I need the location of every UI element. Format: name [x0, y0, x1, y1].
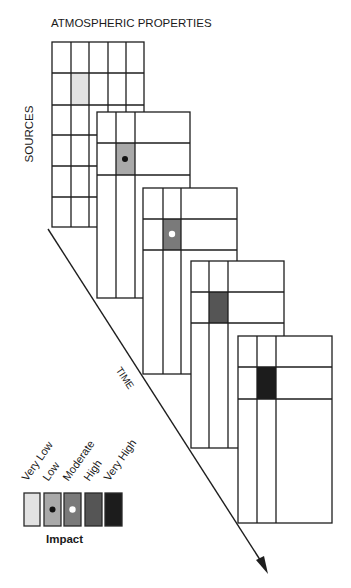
legend-title: Impact [46, 533, 83, 545]
black-dot-icon [50, 507, 56, 513]
legend-swatch-high [85, 493, 102, 526]
white-dot-icon [169, 231, 175, 237]
impact-legend [24, 493, 122, 526]
white-dot-icon [69, 506, 75, 512]
black-dot-icon [122, 156, 128, 162]
very-high-cell [257, 367, 276, 399]
impact-matrix-diagram [0, 0, 351, 588]
time-panel-4 [238, 336, 332, 523]
very-low-cell [71, 74, 89, 105]
arrowhead-icon [256, 556, 268, 574]
legend-swatch-very-high [105, 493, 122, 526]
legend-swatch-very-low [24, 493, 40, 526]
high-cell [209, 292, 228, 323]
